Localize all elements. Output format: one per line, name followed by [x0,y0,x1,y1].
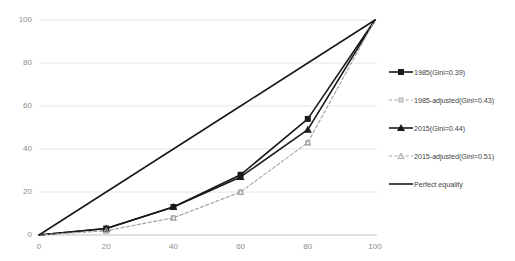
y-tick-label: 60 [8,101,32,110]
x-tick-label: 40 [161,242,185,251]
legend-item-label: 2015(Gini=0.44) [414,124,465,133]
y-tick-label: 20 [8,187,32,196]
x-tick-label: 80 [296,242,320,251]
legend-swatch-icon [388,122,414,134]
y-tick-label: 100 [8,15,32,24]
y-tick-label: 40 [8,144,32,153]
series-4 [39,20,375,235]
y-tick-label: 80 [8,58,32,67]
chart-legend: 1985(Gini=0.39)1985-adjusted(Gini=0.43)2… [388,58,515,198]
data-point-marker [304,126,312,133]
y-tick-label: 0 [8,230,32,239]
legend-swatch-icon [388,178,414,190]
lorenz-curve-chart: 020406080100 020406080100 1985(Gini=0.39… [0,0,515,261]
legend-item-2[interactable]: 2015(Gini=0.44) [388,114,515,142]
x-tick-label: 0 [27,242,51,251]
legend-swatch-icon [388,94,414,106]
series-line [39,20,375,235]
data-point-marker [305,116,311,122]
data-point-marker [398,69,404,75]
legend-item-4[interactable]: Perfect equality [388,170,515,198]
legend-item-label: Perfect equality [414,180,463,189]
legend-item-label: 1985-adjusted(Gini=0.43) [414,96,494,105]
legend-item-label: 2015-adjusted(Gini=0.51) [414,152,494,161]
legend-swatch-icon [388,150,414,162]
x-tick-label: 100 [363,242,387,251]
legend-item-3[interactable]: 2015-adjusted(Gini=0.51) [388,142,515,170]
legend-item-label: 1985(Gini=0.39) [414,68,465,77]
series-lines [39,20,375,235]
legend-item-0[interactable]: 1985(Gini=0.39) [388,58,515,86]
legend-swatch-icon [388,66,414,78]
x-tick-label: 20 [94,242,118,251]
x-tick-label: 60 [229,242,253,251]
legend-item-1[interactable]: 1985-adjusted(Gini=0.43) [388,86,515,114]
